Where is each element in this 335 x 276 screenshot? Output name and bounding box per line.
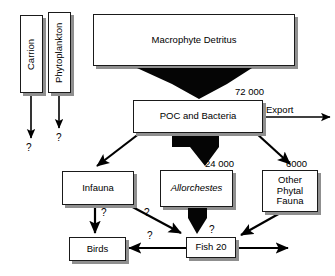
- node-phytoplankton-label: Phytoplankton: [54, 22, 65, 82]
- unknown-marker-phytoplankton: ?: [56, 132, 62, 143]
- edge-poc-infauna: [97, 133, 140, 166]
- flow-label-72000: 72 000: [235, 86, 264, 97]
- edge-infauna-fish: [127, 204, 181, 233]
- node-poc-and-bacteria[interactable]: POC and Bacteria: [133, 100, 263, 133]
- node-infauna-label: Infauna: [82, 183, 114, 194]
- node-birds-label: Birds: [87, 244, 109, 255]
- unknown-marker-infauna-fish: ?: [144, 207, 150, 218]
- edge-poc-other-phytal: [256, 133, 290, 164]
- flow-label-6000: 6000: [286, 158, 307, 169]
- node-allorchestes[interactable]: Allorchestes: [160, 170, 233, 207]
- node-other-phytal-fauna-line-3: Fauna: [277, 196, 304, 207]
- node-fish[interactable]: Fish 20: [186, 237, 236, 258]
- diagram-canvas: Carrion Phytoplankton Macrophyte Detritu…: [0, 0, 335, 276]
- node-other-phytal-fauna-line-1: Other: [278, 175, 302, 186]
- node-other-phytal-fauna[interactable]: Other Phytal Fauna: [262, 170, 318, 212]
- node-carrion-label-box: Carrion: [20, 15, 43, 93]
- node-carrion[interactable]: Carrion: [20, 15, 43, 93]
- node-infauna[interactable]: Infauna: [62, 171, 134, 205]
- unknown-marker-birds-fish: ?: [147, 230, 153, 241]
- node-poc-and-bacteria-label: POC and Bacteria: [160, 111, 237, 122]
- node-fish-label: Fish 20: [195, 242, 226, 253]
- unknown-marker-fish-right: ?: [209, 224, 215, 235]
- node-macrophyte-detritus-label: Macrophyte Detritus: [151, 35, 236, 46]
- flow-label-export: Export: [266, 104, 293, 115]
- node-birds[interactable]: Birds: [69, 237, 126, 261]
- node-allorchestes-label: Allorchestes: [171, 183, 223, 194]
- edge-other-phytal-fish: [241, 212, 282, 235]
- node-macrophyte-detritus[interactable]: Macrophyte Detritus: [93, 14, 295, 66]
- node-carrion-label: Carrion: [26, 38, 37, 69]
- unknown-marker-carrion: ?: [26, 142, 32, 153]
- node-phytoplankton-label-box: Phytoplankton: [48, 12, 71, 93]
- node-phytoplankton[interactable]: Phytoplankton: [48, 12, 71, 93]
- flow-label-24000: 24 000: [205, 158, 234, 169]
- unknown-marker-infauna-birds: ?: [101, 207, 107, 218]
